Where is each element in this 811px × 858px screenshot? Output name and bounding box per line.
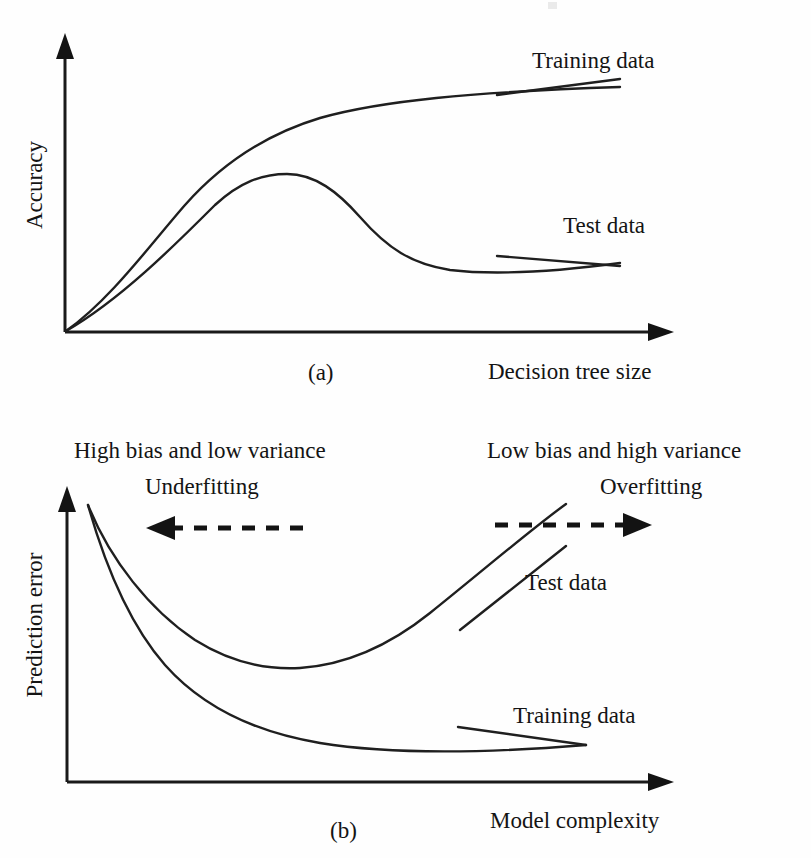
panel-b-test-label: Test data <box>525 570 607 595</box>
panel-b-y-axis-label: Prediction error <box>22 552 47 697</box>
x-axis-arrowhead-b <box>648 773 674 791</box>
y-axis-arrowhead-b <box>58 486 76 512</box>
panel-b-training-label: Training data <box>513 703 635 728</box>
panel-b-group: High bias and low variance Low bias and … <box>22 438 741 843</box>
panel-a-caption: (a) <box>308 360 334 385</box>
panel-a-test-label: Test data <box>563 213 645 238</box>
panel-a-training-curve <box>66 87 620 331</box>
panel-b-training-curve <box>88 505 586 752</box>
panel-b-underfitting-annotation: Underfitting <box>145 474 259 499</box>
panel-b-x-axis-label: Model complexity <box>490 808 660 833</box>
panel-b-overfitting-annotation: Overfitting <box>600 474 703 499</box>
overfitting-dashed-arrow-right <box>495 513 652 537</box>
panel-a-y-axis-label: Accuracy <box>22 140 47 229</box>
panel-a-group: Accuracy Training data Test data Decisio… <box>22 33 674 385</box>
y-axis-arrowhead <box>56 33 74 59</box>
panel-a-y-axis <box>56 33 74 332</box>
panel-a-x-axis <box>65 323 674 341</box>
panel-a-test-leader <box>497 256 620 266</box>
figure-page: Accuracy Training data Test data Decisio… <box>0 0 811 858</box>
panel-b-y-axis <box>58 486 76 782</box>
panel-b-training-leader <box>458 727 586 745</box>
panel-b-caption: (b) <box>330 818 357 843</box>
panel-b-x-axis <box>67 773 674 791</box>
scan-artifact <box>548 2 557 9</box>
panel-b-left-top-annotation: High bias and low variance <box>74 438 326 463</box>
x-axis-arrowhead <box>648 323 674 341</box>
panel-a-test-curve <box>66 174 620 331</box>
underfitting-dashed-arrow-left <box>146 516 303 540</box>
panel-a-training-label: Training data <box>532 48 654 73</box>
panel-b-right-top-annotation: Low bias and high variance <box>487 438 741 463</box>
panel-a-x-axis-label: Decision tree size <box>488 359 651 384</box>
overfitting-figure: Accuracy Training data Test data Decisio… <box>0 0 811 858</box>
